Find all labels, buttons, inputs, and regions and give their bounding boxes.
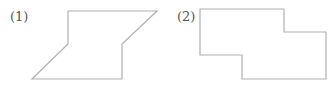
figure-2-stepped-rectangle-shape [200, 9, 326, 79]
figure-area: (1) (2) [0, 0, 336, 88]
figure-1-parallelogram-step-shape [32, 11, 157, 79]
shapes-canvas [0, 0, 336, 88]
